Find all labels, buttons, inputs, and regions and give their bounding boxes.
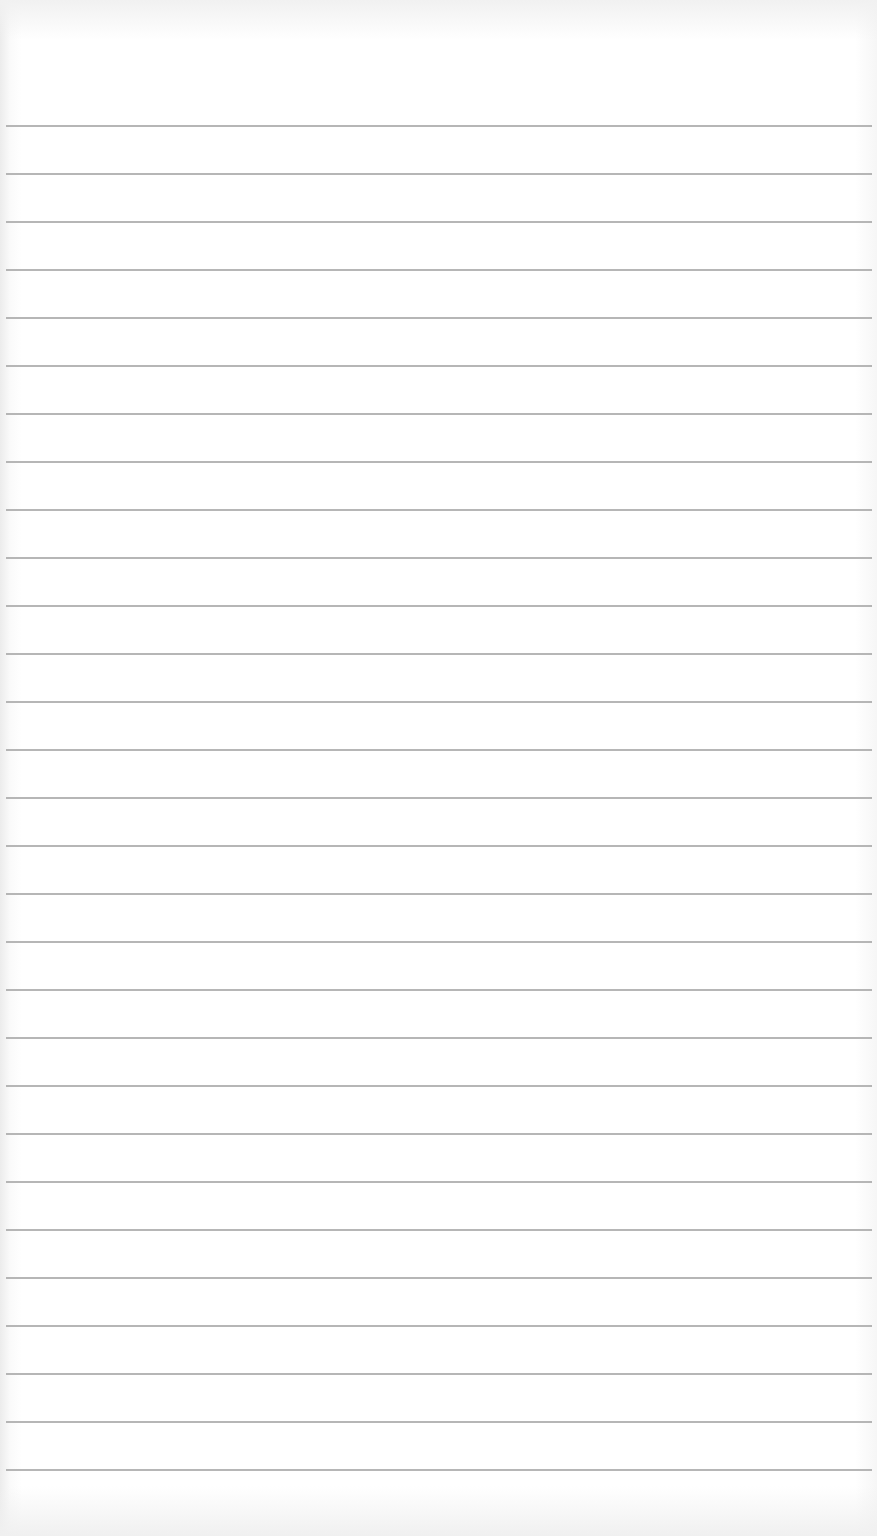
ruled-line <box>6 1325 872 1327</box>
ruled-line <box>6 125 872 127</box>
ruled-line <box>6 941 872 943</box>
ruled-line <box>6 1469 872 1471</box>
ruled-line <box>6 1421 872 1423</box>
ruled-line <box>6 701 872 703</box>
ruled-line <box>6 413 872 415</box>
ruled-line <box>6 1133 872 1135</box>
ruled-line <box>6 1085 872 1087</box>
ruled-line <box>6 461 872 463</box>
ruled-line <box>6 317 872 319</box>
ruled-line <box>6 749 872 751</box>
ruled-line <box>6 845 872 847</box>
ruled-line <box>6 1277 872 1279</box>
ruled-line <box>6 1181 872 1183</box>
ruled-line <box>6 509 872 511</box>
ruled-line <box>6 269 872 271</box>
ruled-line <box>6 797 872 799</box>
ruled-line <box>6 557 872 559</box>
ruled-line <box>6 989 872 991</box>
ruled-line <box>6 653 872 655</box>
ruled-line <box>6 173 872 175</box>
ruled-line <box>6 221 872 223</box>
ruled-line <box>6 1229 872 1231</box>
ruled-line <box>6 1037 872 1039</box>
ruled-line <box>6 893 872 895</box>
ruled-line <box>6 1373 872 1375</box>
ruled-line <box>6 365 872 367</box>
ruled-line <box>6 605 872 607</box>
lined-paper <box>0 0 877 1536</box>
